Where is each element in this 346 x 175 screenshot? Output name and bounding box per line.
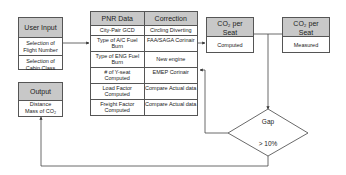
- correction-header: Correction: [145, 12, 198, 25]
- correction-cell: Circling Diverting: [145, 26, 198, 35]
- co2-measured-title: CO₂ per Seat: [283, 18, 329, 36]
- output-item: Distance: [19, 100, 62, 108]
- co2-computed-title: CO₂ per Seat: [207, 18, 253, 36]
- user-input-title: User Input: [19, 18, 62, 37]
- output-box: Output Distance Mass of CO₂: [18, 82, 63, 117]
- co2-computed-value: Computed: [207, 36, 253, 54]
- pnr-header: PNR Data: [91, 12, 145, 25]
- pnr-correction-table: PNR Data Correction City-Pair GCDCirclin…: [90, 11, 198, 116]
- user-input-box: User Input Selection of Flight Number Se…: [18, 17, 63, 70]
- correction-cell: FAA/SAGA Corinair: [145, 36, 198, 51]
- output-title: Output: [19, 83, 62, 100]
- user-input-item: Selection of Flight Number: [19, 37, 62, 55]
- user-input-item: Selection of Cabin Class: [19, 55, 62, 73]
- pnr-cell: Freight Factor Computed: [91, 100, 145, 115]
- correction-cell: Compare Actual data: [145, 84, 198, 99]
- correction-cell: New engine: [145, 52, 198, 67]
- pnr-cell: Type of A/C Fuel Burn: [91, 36, 145, 51]
- gap-label: Gap: [253, 118, 283, 125]
- co2-measured-value: Measured: [283, 36, 329, 54]
- pnr-cell: # of Y-seat Computed: [91, 68, 145, 83]
- gap-condition: > 10%: [253, 140, 283, 147]
- pnr-cell: City-Pair GCD: [91, 26, 145, 35]
- output-item: Mass of CO₂: [19, 108, 62, 115]
- correction-cell: Compare Actual data: [145, 100, 198, 115]
- co2-computed-box: CO₂ per Seat Computed: [206, 17, 254, 53]
- pnr-cell: Type of ENG Fuel Burn: [91, 52, 145, 67]
- correction-cell: EMEP Corinair: [145, 68, 198, 83]
- co2-measured-box: CO₂ per Seat Measured: [282, 17, 330, 53]
- pnr-cell: Load Factor Computed: [91, 84, 145, 99]
